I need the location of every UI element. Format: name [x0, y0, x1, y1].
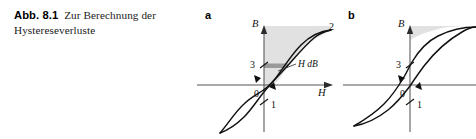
h-axis-label-a: H: [317, 87, 327, 98]
b-axis-label-b: B: [398, 18, 405, 29]
b-axis-label-a: B: [252, 18, 259, 29]
origin-label-a: 0: [254, 88, 259, 99]
point-label-1-b: 1: [417, 99, 422, 110]
point-label-3-a: 3: [250, 59, 255, 70]
figure-caption: Abb. 8.1 Zur Berechnung der Hysteresever…: [14, 8, 186, 37]
point-label-1-a: 1: [271, 99, 276, 110]
descending-branch-b: [354, 27, 476, 126]
point-label-2-a: 2: [329, 21, 334, 32]
hysteresis-plot-a: B H 3 0 1 2 H dB: [190, 0, 336, 139]
point-label-3-b: 3: [396, 59, 401, 70]
direction-arrow-descending-a: [254, 75, 261, 83]
figure-container: Abb. 8.1 Zur Berechnung der Hysteresever…: [0, 0, 476, 139]
figure-caption-label: Abb. 8.1: [14, 9, 58, 21]
h-db-annotation-a: H dB: [297, 59, 318, 69]
shaded-area-a: [264, 26, 331, 88]
hysteresis-plot-b: B 3 0 1: [336, 0, 476, 139]
origin-label-b: 0: [400, 88, 405, 99]
ascending-branch-b: [354, 27, 476, 126]
direction-arrow-ascending-b: [415, 82, 422, 90]
